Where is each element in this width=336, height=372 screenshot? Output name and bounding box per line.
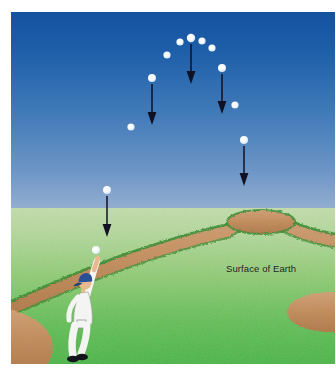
ball-9 <box>208 44 215 51</box>
ball-2 <box>103 186 111 194</box>
ball-4 <box>148 74 156 82</box>
surface-of-earth-label: Surface of Earth <box>226 263 296 274</box>
ball-3 <box>127 123 134 130</box>
ball-8 <box>198 37 205 44</box>
ball-5 <box>163 51 170 58</box>
scene-svg <box>11 12 335 364</box>
ball-10 <box>218 64 226 72</box>
ball-7 <box>187 34 195 42</box>
ball-12 <box>240 136 248 144</box>
ball-6 <box>176 38 183 45</box>
illustration-figure: Surface of Earth <box>11 12 335 364</box>
pitchers-mound <box>227 210 295 234</box>
sky-region <box>11 12 335 209</box>
ball-11 <box>231 101 238 108</box>
ball-1 <box>92 246 100 254</box>
